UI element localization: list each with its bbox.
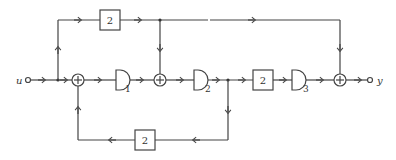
output-terminal — [368, 78, 373, 83]
svg-text:2: 2 — [142, 135, 148, 146]
gain-block-top: 2 — [100, 10, 120, 30]
gain-block-feedback: 2 — [135, 130, 155, 150]
svg-text:1: 1 — [125, 84, 131, 94]
input-terminal — [26, 78, 31, 83]
svg-text:2: 2 — [107, 15, 113, 26]
summing-junction-3 — [334, 74, 346, 86]
summing-junction-1 — [72, 74, 84, 86]
svg-text:2: 2 — [260, 75, 266, 86]
summing-junction-2 — [154, 74, 166, 86]
block-diagram: u 2 1 — [0, 0, 396, 160]
delay-block-d2: 2 — [194, 70, 211, 94]
delay-block-d1: 1 — [116, 70, 131, 94]
svg-text:2: 2 — [205, 84, 211, 94]
gain-block-main: 2 — [253, 70, 273, 90]
svg-text:3: 3 — [303, 84, 309, 94]
split-node-top — [158, 18, 161, 21]
delay-block-d3: 3 — [292, 70, 309, 94]
output-label: y — [376, 75, 383, 86]
input-label: u — [16, 75, 22, 86]
